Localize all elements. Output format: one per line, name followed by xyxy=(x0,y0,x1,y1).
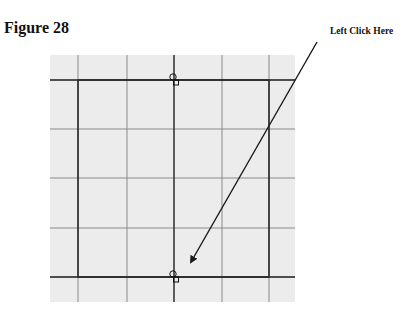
drawing-canvas[interactable] xyxy=(0,0,419,324)
